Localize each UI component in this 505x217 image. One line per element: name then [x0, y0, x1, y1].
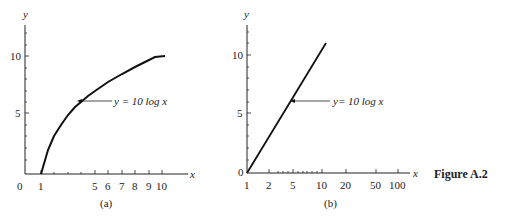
x-tick: 50 [370, 179, 382, 191]
x-tick: 10 [316, 179, 328, 191]
x-tick: 5 [290, 179, 296, 191]
panel-label-a: (a) [100, 197, 113, 210]
panel-a: y x 10 5 0 1 5 6 7 8 9 10 y = 10 log x (… [10, 8, 195, 210]
y-tick: 5 [237, 107, 243, 119]
y-tick: 10 [232, 49, 244, 61]
curve-a [41, 56, 165, 174]
y-label-a: y [22, 8, 28, 20]
x-tick: 1 [244, 179, 250, 191]
x-tick: 6 [105, 180, 111, 192]
panel-b: y x 10 5 0 1 2 5 10 20 50 100 y= 10 log … [232, 8, 418, 210]
x-tick: 8 [132, 180, 138, 192]
figure-caption: Figure A.2 [434, 167, 488, 181]
annotation-a: y = 10 log x [113, 95, 167, 107]
figure: y x 10 5 0 1 5 6 7 8 9 10 y = 10 log x (… [0, 0, 505, 217]
y-tick: 0 [238, 166, 244, 178]
x-tick: 100 [389, 179, 406, 191]
panel-label-b: (b) [324, 197, 337, 210]
x-label-a: x [189, 168, 195, 180]
line-b [247, 43, 326, 173]
x-tick: 5 [92, 180, 98, 192]
x-tick: 1 [38, 180, 44, 192]
y-tick: 10 [10, 50, 22, 62]
y-label-b: y [243, 8, 249, 20]
x-tick: 10 [156, 180, 168, 192]
x-tick: 20 [340, 179, 352, 191]
annotation-b: y= 10 log x [332, 95, 384, 107]
x-label-b: x [412, 167, 418, 179]
x-tick: 7 [119, 180, 125, 192]
y-tick: 5 [15, 107, 21, 119]
x-tick: 0 [17, 180, 23, 192]
x-tick: 9 [146, 180, 152, 192]
x-tick: 2 [266, 179, 272, 191]
